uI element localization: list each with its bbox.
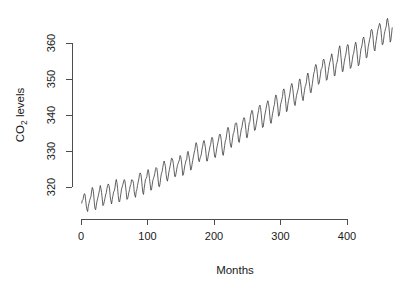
y-axis-title-main: CO [14, 125, 26, 142]
y-axis [66, 43, 72, 187]
x-tick-label: 0 [78, 230, 84, 242]
y-tick-label: 360 [45, 34, 57, 52]
x-tick-label: 100 [138, 230, 156, 242]
plot-canvas: 320330340350360 0100200300400 Months CO2… [0, 0, 415, 293]
x-tick-label: 300 [271, 230, 289, 242]
y-axis-title-tail: levels [14, 87, 26, 120]
y-axis-tick-labels: 320330340350360 [45, 34, 57, 196]
x-axis [81, 219, 347, 225]
co2-series-line [82, 18, 393, 211]
y-tick-label: 320 [45, 178, 57, 196]
y-tick-label: 340 [45, 106, 57, 124]
x-axis-title: Months [216, 264, 254, 276]
y-axis-title: CO2 levels [14, 87, 29, 142]
x-tick-label: 400 [338, 230, 356, 242]
x-axis-tick-labels: 0100200300400 [78, 230, 356, 242]
y-axis-tick-marks [66, 43, 72, 187]
x-axis-tick-marks [81, 219, 347, 225]
co2-plot-figure: 320330340350360 0100200300400 Months CO2… [0, 0, 415, 293]
y-tick-label: 350 [45, 70, 57, 88]
x-tick-label: 200 [205, 230, 223, 242]
y-tick-label: 330 [45, 142, 57, 160]
